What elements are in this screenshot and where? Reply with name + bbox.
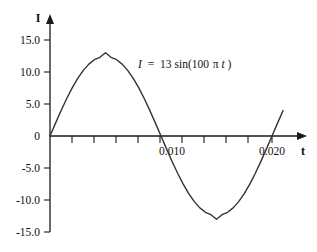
y-tick-label-10: 10.0 — [20, 66, 40, 78]
current-vs-time-chart: 15.0 10.0 5.0 0 -5.0 -10.0 -15.0 0.010 0… — [0, 0, 317, 252]
equation-amplitude: 13 — [160, 58, 172, 70]
y-tick-label-neg15: -15.0 — [16, 226, 40, 238]
equation-symbol: I — [137, 58, 143, 70]
y-tick-label-neg10: -10.0 — [16, 194, 40, 206]
y-tick-label-15: 15.0 — [20, 34, 40, 46]
equation-equals: = — [148, 58, 155, 70]
chart-background — [0, 0, 317, 252]
x-axis-label: t — [301, 144, 305, 158]
y-tick-label-5: 5.0 — [26, 98, 41, 110]
equation-function: sin(100 — [174, 58, 209, 71]
equation-close-paren: ) — [228, 58, 232, 71]
equation-annotation: I = 13 sin(100 π t ) — [137, 58, 232, 71]
y-tick-label-0: 0 — [34, 130, 40, 142]
equation-pi-symbol: π — [213, 58, 219, 70]
x-tick-label-0010: 0.010 — [159, 145, 185, 157]
y-tick-label-neg5: -5.0 — [22, 162, 40, 174]
y-axis-label: I — [36, 11, 41, 25]
equation-variable: t — [222, 58, 226, 70]
